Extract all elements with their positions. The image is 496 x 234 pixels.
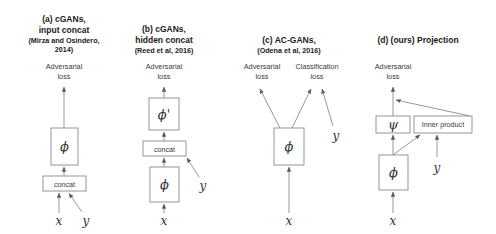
- panel-c-input-x: x: [286, 214, 293, 228]
- panel-c-title-line1: (c) AC-GANs,: [262, 35, 316, 45]
- panel-c-citation-line1: (Odena et al, 2016): [257, 46, 321, 55]
- panel-c: (c) AC-GANs, (Odena et al, 2016) Adversa…: [244, 35, 340, 228]
- panel-a-edge-y-to-concat: [69, 194, 82, 213]
- panel-d-edge-innerproduct-to-loss: [396, 100, 470, 116]
- panel-b-citation-line1: (Reed et al, 2016): [135, 46, 194, 55]
- panel-b-title-line2: hidden concat: [135, 35, 193, 45]
- panel-c-adversarial-loss-line1: Adversarial: [244, 62, 281, 71]
- panel-c-edge-phi-to-classification-loss: [292, 89, 311, 128]
- panel-b-box-phi-prime-label: ϕ': [158, 107, 170, 122]
- panel-a-input-x: x: [56, 214, 63, 228]
- panel-c-classification-loss-line1: Classification: [296, 62, 339, 71]
- panel-a-adversarial-loss-line2: loss: [58, 72, 71, 81]
- panel-b-box-concat-label: concat: [154, 145, 175, 154]
- panel-c-input-y: y: [332, 129, 340, 143]
- panel-c-box-phi-label: ϕ: [285, 139, 294, 154]
- panel-b: (b) cGANs, hidden concat (Reed et al, 20…: [135, 24, 207, 228]
- panel-d: (d) (ours) Projection Adversarial loss ψ…: [375, 35, 472, 228]
- panel-c-adversarial-loss-line2: loss: [256, 72, 269, 81]
- panel-a: (a) cGANs, input concat (Mirza and Osind…: [28, 14, 99, 228]
- panel-d-input-x: x: [390, 214, 397, 228]
- panel-b-input-y: y: [199, 179, 207, 193]
- figure-conditional-gan-architectures: (a) cGANs, input concat (Mirza and Osind…: [0, 0, 496, 234]
- panel-d-title-line1: (d) (ours) Projection: [377, 35, 458, 45]
- panel-a-box-concat-label: concat: [54, 180, 75, 189]
- panel-b-title-line1: (b) cGANs,: [142, 24, 186, 34]
- panel-d-box-psi-label: ψ: [388, 117, 399, 132]
- panel-b-edge-y-to-concat: [187, 158, 199, 177]
- panel-a-title-line1: (a) cGANs,: [42, 14, 85, 24]
- panel-b-adversarial-loss-line2: loss: [158, 72, 171, 81]
- panel-d-adversarial-loss-line1: Adversarial: [375, 62, 412, 71]
- panel-c-edge-phi-to-adversarial-loss: [260, 89, 280, 128]
- panel-a-input-y: y: [82, 214, 90, 228]
- panel-a-title-line2: input concat: [39, 25, 90, 35]
- panel-d-box-inner-product-label: Inner product: [422, 120, 464, 129]
- panel-d-input-y: y: [433, 161, 441, 175]
- panel-c-classification-loss-line2: loss: [311, 72, 324, 81]
- panel-a-citation-line1: (Mirza and Osindero,: [28, 36, 99, 45]
- panel-b-box-phi-label: ϕ: [160, 177, 169, 192]
- panel-c-edge-y-to-classification-loss: [322, 89, 333, 126]
- panel-a-box-phi-label: ϕ: [60, 139, 69, 154]
- panel-a-citation-line2: 2014): [55, 45, 74, 54]
- panel-d-box-phi-label: ϕ: [389, 165, 398, 180]
- panel-b-input-x: x: [161, 214, 168, 228]
- panel-d-edge-phi-to-innerproduct: [393, 135, 420, 155]
- panel-a-adversarial-loss-line1: Adversarial: [46, 62, 83, 71]
- panel-d-adversarial-loss-line2: loss: [387, 72, 400, 81]
- panel-b-adversarial-loss-line1: Adversarial: [146, 62, 183, 71]
